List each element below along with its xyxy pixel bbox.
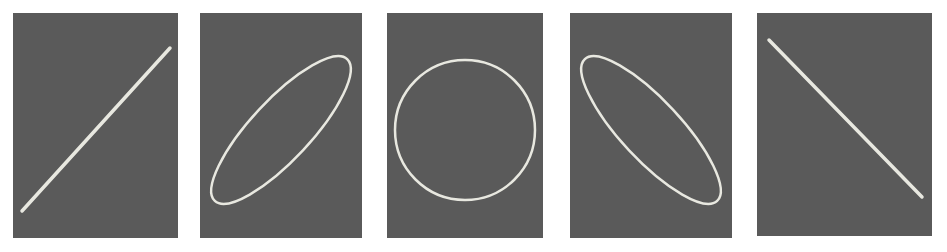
panel-negative-line [757, 13, 932, 236]
panel-positive-line [13, 13, 178, 238]
correlation-figure: perfect positive correlation line positi… [0, 0, 947, 252]
panel-circle [387, 13, 543, 238]
panel-positive-ellipse [200, 13, 362, 238]
panel-negative-ellipse [570, 13, 732, 238]
